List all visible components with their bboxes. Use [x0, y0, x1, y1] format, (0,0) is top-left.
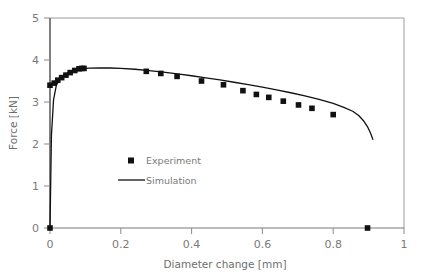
experiment-data-point: [221, 82, 227, 88]
y-tick-label-2: 2: [32, 138, 39, 151]
experiment-data-point: [309, 106, 315, 112]
experiment-data-point: [266, 95, 272, 101]
y-axis-ticks: [44, 18, 50, 228]
y-axis-tick-labels: 5 4 3 2 1 0: [32, 12, 39, 235]
experiment-data-point: [143, 69, 149, 75]
simulation-series: [50, 68, 373, 228]
chart-figure: 5 4 3 2 1 0 0 0.2 0.4 0.6 0.8 1 Diameter…: [0, 0, 421, 276]
x-tick-label-0-8: 0.8: [324, 238, 342, 251]
experiment-data-point: [47, 225, 53, 231]
experiment-data-point: [296, 102, 302, 108]
x-axis-ticks: [50, 228, 404, 234]
x-axis-tick-labels: 0 0.2 0.4 0.6 0.8 1: [47, 238, 408, 251]
experiment-data-point: [240, 88, 246, 94]
experiment-series: [47, 66, 370, 231]
x-axis-title: Diameter change [mm]: [164, 258, 287, 270]
experiment-data-point: [280, 98, 286, 104]
legend-label-experiment: Experiment: [146, 155, 201, 166]
y-axis-title: Force [kN]: [7, 96, 19, 150]
y-tick-label-1: 1: [32, 180, 39, 193]
y-tick-label-4: 4: [32, 54, 39, 67]
x-tick-label-0-6: 0.6: [254, 238, 272, 251]
x-tick-label-1: 1: [401, 238, 408, 251]
experiment-data-point: [158, 71, 164, 77]
experiment-data-point: [174, 74, 180, 80]
x-tick-label-0: 0: [47, 238, 54, 251]
y-tick-label-0: 0: [32, 222, 39, 235]
legend-square-marker-icon: [128, 158, 134, 164]
x-tick-label-0-4: 0.4: [183, 238, 201, 251]
experiment-data-point: [81, 66, 87, 72]
force-vs-diameter-change-chart: 5 4 3 2 1 0 0 0.2 0.4 0.6 0.8 1 Diameter…: [0, 0, 421, 276]
experiment-data-point: [330, 112, 336, 118]
y-tick-label-3: 3: [32, 96, 39, 109]
plot-frame: [50, 18, 404, 228]
experiment-data-point: [199, 78, 205, 84]
experiment-data-point: [254, 92, 260, 98]
legend-label-simulation: Simulation: [146, 175, 197, 186]
y-tick-label-5: 5: [32, 12, 39, 25]
simulation-curve: [50, 68, 373, 228]
x-tick-label-0-2: 0.2: [112, 238, 130, 251]
chart-legend: Experiment Simulation: [118, 155, 201, 186]
experiment-data-point: [365, 225, 371, 231]
